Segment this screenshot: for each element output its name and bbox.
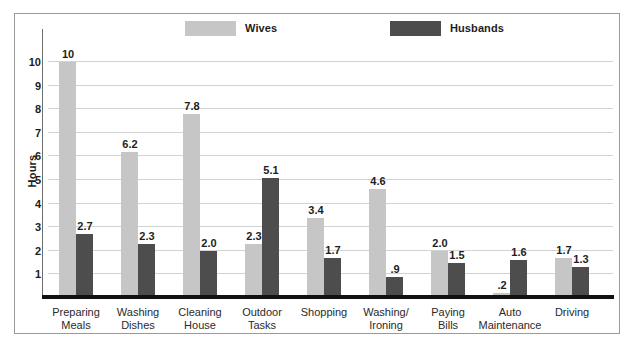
x-axis-baseline — [42, 295, 614, 299]
category-label: PreparingMeals — [52, 306, 100, 332]
bar-wives: 10 — [59, 62, 76, 298]
y-tick-label: 8 — [35, 104, 41, 115]
y-tick-label: 1 — [35, 269, 41, 280]
category-label-line: Washing/ — [363, 306, 408, 319]
y-tick-label: 2 — [35, 245, 41, 256]
bar-value-label: 4.6 — [361, 176, 395, 187]
bar-husbands: 2.3 — [138, 244, 155, 298]
bar-value-label: 1.6 — [502, 247, 536, 258]
bar-wives: 4.6 — [369, 189, 386, 298]
y-axis-line — [42, 29, 43, 298]
bar-value-label: 7.8 — [175, 101, 209, 112]
category-label-line: Preparing — [52, 306, 100, 319]
category-label: PayingBills — [431, 306, 465, 332]
bar-wives: 6.2 — [121, 152, 138, 298]
bar-group: 4.6.9Washing/Ironing — [369, 43, 403, 298]
category-label: Washing/Ironing — [363, 306, 408, 332]
bar-husbands: 2.0 — [200, 251, 217, 298]
bar-group: .21.6AutoMaintenance — [493, 43, 527, 298]
category-label-line: Maintenance — [479, 319, 542, 332]
y-tick-label: 6 — [35, 151, 41, 162]
category-label-line: Dishes — [117, 319, 159, 332]
category-label-line: Washing — [117, 306, 159, 319]
bar-husbands: 1.3 — [572, 267, 589, 298]
y-tick-label: 9 — [35, 80, 41, 91]
bar-value-label: 1.7 — [316, 245, 350, 256]
category-label-line: House — [178, 319, 221, 332]
category-label: Driving — [555, 306, 589, 319]
chart-frame: Wives Husbands Hours 12345678910 102.7Pr… — [14, 13, 620, 334]
y-tick-label: 3 — [35, 222, 41, 233]
category-label-line: Paying — [431, 306, 465, 319]
legend-label-husbands: Husbands — [450, 22, 504, 34]
bar-value-label: 1.3 — [564, 254, 598, 265]
bar-group: 2.35.1OutdoorTasks — [245, 43, 279, 298]
bar-value-label: 2.0 — [423, 238, 457, 249]
bar-value-label: 2.7 — [68, 221, 102, 232]
bar-wives: 2.3 — [245, 244, 262, 298]
bar-value-label: 6.2 — [113, 139, 147, 150]
bar-group: 3.41.7Shopping — [307, 43, 341, 298]
category-label-line: Cleaning — [178, 306, 221, 319]
category-label: WashingDishes — [117, 306, 159, 332]
bar-value-label: 3.4 — [299, 205, 333, 216]
bar-husbands: 2.7 — [76, 234, 93, 298]
category-label-line: Bills — [431, 319, 465, 332]
legend-entry-wives: Wives — [185, 19, 277, 37]
bar-value-label: 2.3 — [130, 231, 164, 242]
category-label-line: Outdoor — [242, 306, 282, 319]
bar-wives: 7.8 — [183, 114, 200, 298]
bar-value-label: 10 — [51, 49, 85, 60]
bar-wives: 3.4 — [307, 218, 324, 298]
bar-group: 1.71.3Driving — [555, 43, 589, 298]
category-label: CleaningHouse — [178, 306, 221, 332]
plot-area: Hours 12345678910 102.7PreparingMeals6.2… — [48, 43, 613, 298]
legend-swatch-husbands — [390, 21, 441, 36]
category-label: AutoMaintenance — [479, 306, 542, 332]
bar-group: 2.01.5PayingBills — [431, 43, 465, 298]
category-label-line: Shopping — [301, 306, 348, 319]
legend-label-wives: Wives — [245, 22, 277, 34]
category-label-line: Ironing — [363, 319, 408, 332]
y-tick-label: 4 — [35, 198, 41, 209]
bar-husbands: 1.6 — [510, 260, 527, 298]
chart-legend: Wives Husbands — [15, 19, 619, 41]
bar-group: 6.22.3WashingDishes — [121, 43, 155, 298]
bar-husbands: 1.7 — [324, 258, 341, 298]
category-label: OutdoorTasks — [242, 306, 282, 332]
y-tick-label: 10 — [29, 56, 41, 67]
y-tick-label: 7 — [35, 127, 41, 138]
legend-swatch-wives — [185, 21, 236, 36]
bar-value-label: 5.1 — [254, 165, 288, 176]
category-label: Shopping — [301, 306, 348, 319]
bar-group: 7.82.0CleaningHouse — [183, 43, 217, 298]
category-label-line: Tasks — [242, 319, 282, 332]
bar-group: 102.7PreparingMeals — [59, 43, 93, 298]
y-tick-label: 5 — [35, 174, 41, 185]
bar-husbands: 1.5 — [448, 263, 465, 298]
legend-entry-husbands: Husbands — [390, 19, 504, 37]
bar-value-label: 1.5 — [440, 250, 474, 261]
bar-value-label: 2.0 — [192, 238, 226, 249]
category-label-line: Driving — [555, 306, 589, 319]
category-label-line: Meals — [52, 319, 100, 332]
bar-value-label: .9 — [378, 264, 412, 275]
category-label-line: Auto — [479, 306, 542, 319]
bar-husbands: 5.1 — [262, 178, 279, 298]
